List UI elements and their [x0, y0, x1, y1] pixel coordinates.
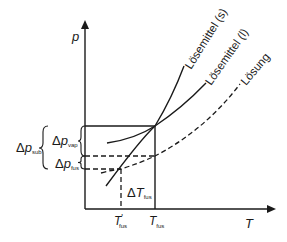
brace-delta-p-vap-icon — [78, 126, 85, 156]
brace-delta-p-fus-icon — [78, 156, 85, 169]
label-T-fus: Tfus — [149, 214, 164, 229]
label-delta-p-sub: Δpsub — [16, 140, 42, 155]
label-delta-T-fus: ΔTfus — [127, 185, 152, 200]
y-axis-label: p — [71, 29, 79, 44]
brace-delta-p-sub-icon — [39, 126, 48, 169]
label-delta-p-fus: Δpfus — [55, 156, 79, 171]
label-curve-solution: Lösung — [238, 51, 271, 88]
x-axis-arrow-icon — [267, 205, 276, 213]
axes — [85, 26, 270, 209]
x-axis-label: T — [245, 216, 254, 231]
y-axis-arrow-icon — [81, 20, 89, 29]
dashed-helpers — [85, 156, 155, 209]
label-T-fus-prime: T'fus — [114, 212, 127, 229]
label-delta-p-vap: Δpvap — [52, 133, 78, 148]
curve-solvent-liquid — [107, 83, 206, 143]
phase-diagram: p T Lösemittel (s) Lösemittel (l) Lösung… — [0, 0, 287, 242]
